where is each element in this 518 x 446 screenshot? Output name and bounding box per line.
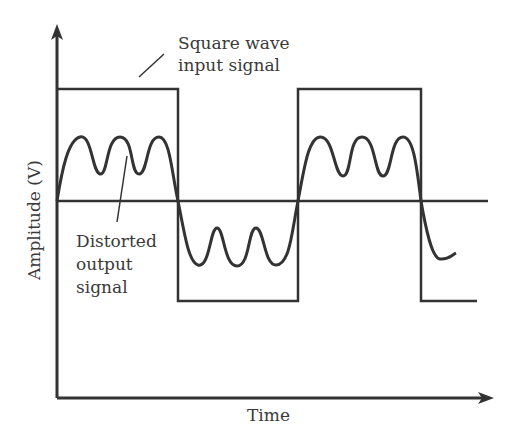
waveform-diagram: Square wave input signal Distorted outpu… [0, 0, 518, 446]
x-axis-label: Time [247, 405, 290, 425]
output-label-line2: output [76, 254, 133, 274]
input-leader-line [139, 54, 164, 77]
input-label-line2: input signal [178, 55, 280, 75]
output-label-line3: signal [76, 277, 128, 297]
y-axis-label: Amplitude (V) [24, 160, 44, 281]
output-leader-line [117, 156, 127, 222]
input-label-line1: Square wave [178, 33, 290, 53]
output-label-line1: Distorted [76, 231, 157, 251]
